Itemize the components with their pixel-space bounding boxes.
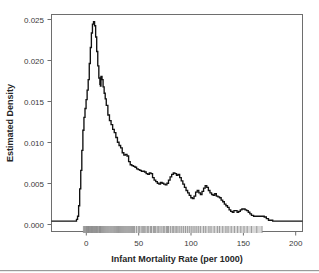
plot-frame (52, 15, 303, 232)
y-axis-tick-labels: 0.025 0.020 0.015 0.010 0.005 0.000 (24, 16, 45, 230)
y-tick-label-0020: 0.020 (24, 57, 45, 66)
y-tick-label-0010: 0.010 (24, 139, 45, 148)
rug-plot (83, 226, 262, 233)
bottom-divider-rule (0, 270, 319, 271)
x-tick-label-50: 50 (134, 239, 143, 248)
x-axis-title: Infant Mortality Rate (per 1000) (111, 254, 243, 264)
y-tick-label-0015: 0.015 (24, 98, 45, 107)
y-axis-ticks (48, 20, 52, 225)
y-tick-label-0000: 0.000 (24, 221, 45, 230)
x-axis-tick-labels: 0 50 100 150 200 (84, 239, 303, 248)
y-tick-label-0005: 0.005 (24, 180, 45, 189)
y-tick-label-0025: 0.025 (24, 16, 45, 25)
density-plot-figure: 0.025 0.020 0.015 0.010 0.005 0.000 0 50… (0, 0, 319, 273)
chart-canvas: 0.025 0.020 0.015 0.010 0.005 0.000 0 50… (0, 0, 319, 273)
y-axis-title: Estimated Density (5, 84, 15, 162)
density-curve (52, 22, 303, 221)
x-tick-label-100: 100 (184, 239, 198, 248)
x-tick-label-150: 150 (237, 239, 251, 248)
x-tick-label-200: 200 (289, 239, 303, 248)
x-tick-label-0: 0 (84, 239, 89, 248)
